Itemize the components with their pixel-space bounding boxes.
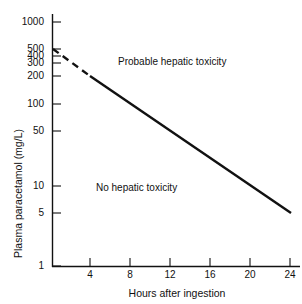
xtick-label-24: 24: [278, 270, 302, 280]
xtick-label-8: 8: [118, 270, 142, 280]
xtick-label-16: 16: [198, 270, 222, 280]
ytick-label-100: 100: [0, 99, 44, 109]
chart-plot-area: [0, 0, 302, 304]
xtick-label-12: 12: [158, 270, 182, 280]
xtick-label-4: 4: [78, 270, 102, 280]
annotation-no-hepatic-toxicity: No hepatic toxicity: [96, 182, 177, 193]
nomogram-chart: 1000 500 400 300 200 100 50 10 5 1 4 8 1…: [0, 0, 302, 304]
ytick-label-1000: 1000: [0, 17, 44, 27]
xtick-label-20: 20: [238, 270, 262, 280]
y-axis-ticks: [53, 22, 61, 266]
x-axis-ticks: [90, 258, 290, 266]
ytick-label-300: 300: [0, 58, 44, 68]
annotation-probable-hepatic-toxicity: Probable hepatic toxicity: [118, 56, 226, 67]
ytick-label-1: 1: [0, 261, 44, 271]
y-axis-title: Plasma paracetamol (mg/L): [13, 129, 24, 258]
ytick-label-200: 200: [0, 71, 44, 81]
x-axis-title: Hours after ingestion: [52, 288, 302, 299]
